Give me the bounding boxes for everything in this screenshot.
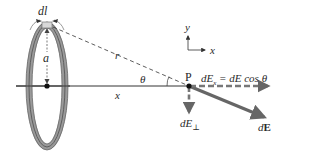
ring-center-dot [44, 83, 49, 88]
dl-label: dl [38, 5, 47, 17]
dEperp-text: dE [180, 117, 192, 129]
point-P-label: P [185, 71, 192, 83]
dl-segment [42, 22, 52, 28]
point-P-dot [186, 83, 191, 88]
r-label: r [115, 49, 119, 61]
dl-arrow-left-icon [36, 19, 42, 23]
theta-label: θ [140, 73, 145, 85]
theta-arc [167, 77, 169, 87]
dEperp-label: dE⊥ [180, 117, 200, 134]
radius-a-label: a [43, 52, 49, 64]
dE-vector [189, 86, 264, 117]
radius-a-arrow-down-icon [45, 79, 50, 84]
dEx-equation: dEx = dE cos θ [201, 72, 267, 89]
x-distance-label: x [115, 89, 120, 101]
dE-label: dE [258, 121, 271, 133]
axis-y-label: y [185, 21, 190, 33]
axis-x-label: x [210, 44, 215, 56]
dl-arrow-right-icon [52, 19, 58, 23]
dEx-rhs: = dE cos θ [216, 72, 267, 84]
dE-vector-symbol: E [264, 121, 271, 133]
coordinate-axes-icon [188, 36, 205, 50]
dEx-lhs: dE [201, 72, 213, 84]
dEperp-subscript: ⊥ [192, 123, 200, 132]
